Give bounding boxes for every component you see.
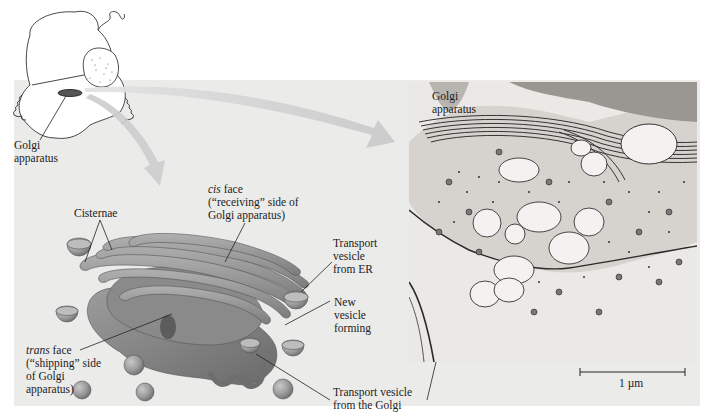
new-vesicle-label: New vesicle forming [334, 296, 371, 335]
micrograph-golgi-label: Golgi apparatus [432, 90, 476, 116]
cisternae-label: Cisternae [74, 207, 117, 220]
trans-face-label: trans face (“shipping” side of Golgi app… [26, 344, 101, 396]
cell-sketch [13, 11, 133, 140]
arrow-to-micrograph [85, 86, 395, 148]
cis-face-label: cis face (“receiving” side of Golgi appa… [208, 183, 299, 222]
electron-micrograph [409, 82, 697, 362]
transport-vesicle-golgi-label: Transport vesicle from the Golgi [333, 386, 412, 412]
transport-vesicle-er-label: Transport vesicle from ER [333, 237, 377, 276]
cell-golgi-label: Golgi apparatus [14, 139, 58, 165]
scale-bar-label: 1 µm [619, 377, 643, 389]
